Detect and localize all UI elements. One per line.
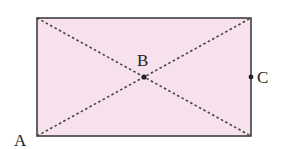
label-c: C <box>257 68 268 87</box>
label-a: A <box>14 131 27 149</box>
point-c-dot <box>249 75 254 80</box>
label-b: B <box>137 51 148 70</box>
rectangle-diagram: A B C <box>0 0 288 149</box>
point-b-dot <box>141 74 146 79</box>
